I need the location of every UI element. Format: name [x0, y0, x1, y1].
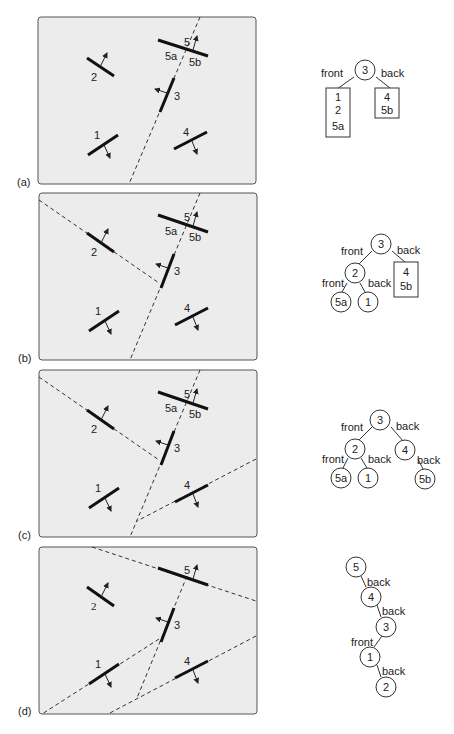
svg-text:5a: 5a — [332, 120, 345, 132]
wall-5-label: 5 — [184, 36, 190, 48]
svg-text:2: 2 — [352, 443, 358, 455]
wall-1-label: 1 — [95, 658, 101, 670]
panel-d-label: (d) — [18, 705, 31, 717]
svg-text:5: 5 — [353, 561, 359, 573]
wall-5b-label: 5b — [189, 231, 201, 243]
edge-label-front: front — [351, 636, 373, 648]
wall-2-label: 2 — [91, 600, 97, 612]
edge-label-back: back — [417, 454, 441, 466]
svg-text:4: 4 — [402, 444, 408, 456]
svg-text:4: 4 — [368, 591, 374, 603]
panel-b-background — [39, 193, 257, 360]
panel-d: 2 5 3 1 4 (d) 5 back 4 back 3 — [18, 547, 406, 717]
edge-label-back: back — [396, 420, 420, 432]
svg-text:3: 3 — [378, 238, 384, 250]
svg-text:3: 3 — [377, 414, 383, 426]
svg-text:4: 4 — [384, 91, 390, 103]
svg-text:3: 3 — [383, 621, 389, 633]
panel-b-label: (b) — [18, 352, 31, 364]
svg-text:3: 3 — [362, 64, 368, 76]
wall-5a-label: 5a — [165, 225, 178, 237]
panel-c-background — [39, 370, 257, 537]
wall-5b-label: 5b — [189, 408, 201, 420]
panel-d-background — [39, 547, 257, 714]
svg-text:5a: 5a — [335, 296, 348, 308]
wall-5-label: 5 — [184, 564, 190, 576]
edge-label-back: back — [368, 277, 392, 289]
panel-c: 2 5 5a 5b 3 1 4 (c) 3 front back — [18, 370, 441, 541]
wall-3-label: 3 — [174, 619, 180, 631]
bsp-tree-figure: 2 5 5a 5b 3 1 4 (a) 3 front back 1 2 — [0, 0, 454, 734]
svg-text:2: 2 — [383, 681, 389, 693]
edge-label-back: back — [381, 67, 405, 79]
edge-label-front: front — [322, 453, 344, 465]
svg-text:5b: 5b — [400, 280, 412, 292]
edge-label-front: front — [341, 245, 363, 257]
edge-label-back: back — [382, 605, 406, 617]
wall-3-label: 3 — [174, 90, 180, 102]
wall-5a-label: 5a — [165, 402, 178, 414]
svg-text:1: 1 — [367, 651, 373, 663]
svg-text:2: 2 — [352, 267, 358, 279]
wall-1-label: 1 — [95, 482, 101, 494]
edge-label-front: front — [341, 421, 363, 433]
edge-label-front: front — [322, 277, 344, 289]
wall-5b-label: 5b — [189, 56, 201, 68]
edge-label-front: front — [321, 67, 343, 79]
wall-5-label: 5 — [184, 211, 190, 223]
svg-text:5a: 5a — [335, 472, 348, 484]
svg-text:1: 1 — [365, 296, 371, 308]
wall-4-label: 4 — [184, 479, 190, 491]
wall-4-label: 4 — [184, 302, 190, 314]
edge-label-back: back — [382, 665, 406, 677]
edge-label-back: back — [367, 576, 391, 588]
svg-text:1: 1 — [335, 91, 341, 103]
wall-3-label: 3 — [174, 265, 180, 277]
edge-label-back: back — [397, 244, 421, 256]
bsp-tree-b: 3 front back 2 front back 5a 1 4 5b — [322, 234, 421, 312]
wall-2-label: 2 — [91, 71, 97, 83]
wall-4-label: 4 — [183, 126, 189, 138]
wall-4-label: 4 — [184, 655, 190, 667]
svg-text:1: 1 — [365, 472, 371, 484]
edge-label-back: back — [368, 453, 392, 465]
wall-5-label: 5 — [184, 388, 190, 400]
bsp-tree-d: 5 back 4 back 3 front 1 back 2 — [346, 557, 406, 697]
panel-a-background — [38, 17, 256, 184]
panel-a-label: (a) — [17, 176, 30, 188]
panel-b: 2 5 5a 5b 3 1 4 (b) 3 front back 2 — [18, 193, 421, 364]
svg-text:5b: 5b — [419, 473, 431, 485]
svg-text:4: 4 — [403, 266, 409, 278]
bsp-tree-a: 3 front back 1 2 5a 4 5b — [321, 60, 405, 137]
wall-2-label: 2 — [91, 246, 97, 258]
wall-5a-label: 5a — [165, 50, 178, 62]
wall-1-label: 1 — [95, 305, 101, 317]
panel-c-label: (c) — [18, 529, 31, 541]
panel-a: 2 5 5a 5b 3 1 4 (a) 3 front back 1 2 — [17, 17, 405, 188]
bsp-tree-c: 3 front back 2 front back 4 back 5a 1 5b — [322, 410, 441, 489]
svg-text:5b: 5b — [381, 104, 393, 116]
wall-3-label: 3 — [174, 442, 180, 454]
wall-2-label: 2 — [91, 423, 97, 435]
svg-text:2: 2 — [335, 104, 341, 116]
wall-1-label: 1 — [94, 129, 100, 141]
